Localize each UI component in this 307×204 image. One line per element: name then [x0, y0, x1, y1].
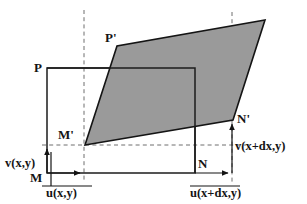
label-u-xdx-y: u(x+dx,y) [190, 186, 241, 200]
label-v-xdx-y: v(x+dx,y) [235, 139, 286, 153]
vertex-label-M: M [30, 170, 42, 185]
vertex-label-P-prime: P' [105, 30, 117, 45]
figure-canvas: P P' M M' N N' u(x,y) v(x,y) u(x+dx,y) v… [0, 0, 307, 204]
vertex-label-P: P [34, 60, 42, 75]
label-v-xy: v(x,y) [5, 156, 35, 170]
vertex-label-N: N [198, 156, 208, 171]
vertex-label-N-prime: N' [237, 111, 250, 126]
deformation-figure: P P' M M' N N' u(x,y) v(x,y) u(x+dx,y) v… [0, 0, 307, 204]
vertex-label-M-prime: M' [58, 127, 74, 142]
label-u-xy: u(x,y) [46, 186, 77, 200]
